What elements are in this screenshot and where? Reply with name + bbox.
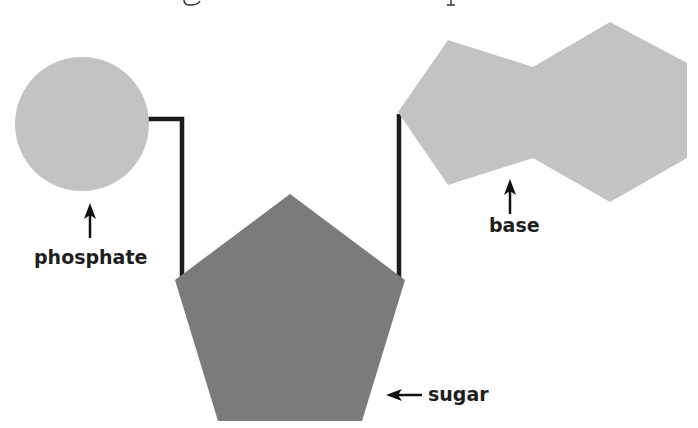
- sugar-pentagon: [175, 194, 405, 421]
- sugar-arrow-icon: [386, 389, 422, 401]
- phosphate-circle: [15, 57, 149, 191]
- base-arrow-icon: [504, 179, 516, 214]
- base-label: base: [489, 216, 540, 235]
- diagram-canvas: [0, 0, 698, 428]
- phosphate-arrow-icon: [84, 203, 96, 238]
- phosphate-sugar-bond: [148, 119, 182, 282]
- base-rings: [398, 22, 687, 202]
- nucleotide-diagram: phosphate base sugar: [0, 0, 698, 428]
- sugar-label: sugar: [428, 385, 489, 404]
- phosphate-label: phosphate: [34, 248, 147, 267]
- cropped-title-fragment: [184, 0, 455, 5]
